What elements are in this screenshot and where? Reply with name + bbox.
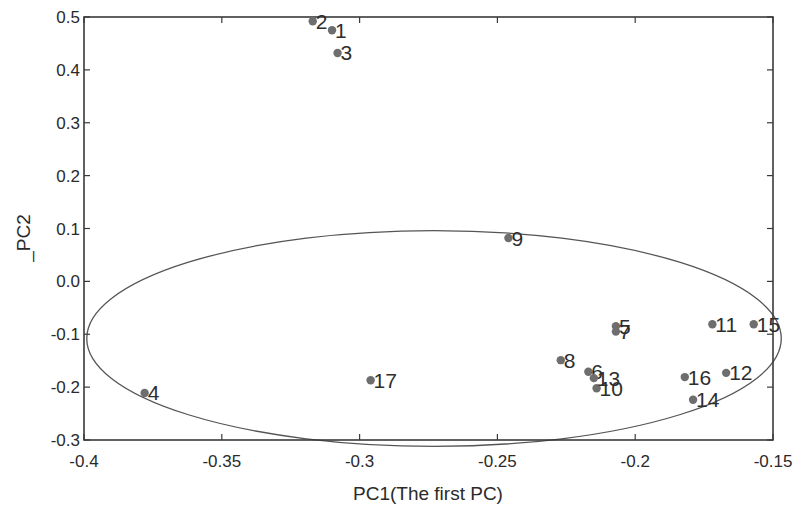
y-tick-label: 0.0 (56, 272, 80, 291)
point-label: 2 (316, 10, 328, 33)
point-label: 3 (341, 41, 353, 64)
point-label: 15 (757, 313, 780, 336)
x-axis-title: PC1(The first PC) (353, 483, 503, 504)
chart-background (0, 0, 798, 511)
y-tick-label: 0.4 (56, 61, 80, 80)
point-label: 16 (688, 366, 711, 389)
x-tick-label: -0.25 (478, 452, 517, 471)
point-label: 4 (148, 381, 160, 404)
x-tick-label: -0.2 (621, 452, 650, 471)
x-tick-label: -0.15 (754, 452, 793, 471)
point-label: 17 (374, 369, 397, 392)
point-label: 13 (597, 367, 620, 390)
pca-scatter-chart: -0.4-0.35-0.3-0.25-0.2-0.15 0.50.40.30.2… (0, 0, 798, 511)
point-label: 9 (511, 227, 523, 250)
y-tick-label: 0.3 (56, 114, 80, 133)
x-tick-label: -0.4 (69, 452, 98, 471)
y-tick-label: -0.3 (51, 431, 80, 450)
x-tick-label: -0.35 (202, 452, 241, 471)
point-label: 8 (564, 349, 576, 372)
y-tick-label: -0.1 (51, 325, 80, 344)
y-axis-title: _PC2 (13, 214, 35, 263)
y-tick-label: 0.2 (56, 167, 80, 186)
point-label: 14 (696, 388, 720, 411)
point-label: 7 (619, 320, 631, 343)
point-label: 11 (715, 313, 737, 336)
point-label: 12 (729, 361, 752, 384)
y-tick-label: 0.5 (56, 8, 80, 27)
point-label: 1 (335, 19, 347, 42)
y-tick-label: -0.2 (51, 378, 80, 397)
x-tick-label: -0.3 (345, 452, 374, 471)
y-tick-label: 0.1 (56, 220, 80, 239)
